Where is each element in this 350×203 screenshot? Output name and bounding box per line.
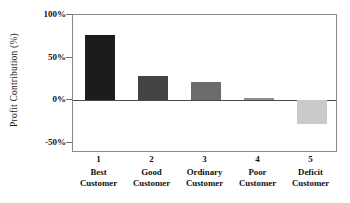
bar-slot xyxy=(285,15,337,151)
x-axis-category: 4PoorCustomer xyxy=(231,154,284,190)
y-axis-tick-mark xyxy=(66,57,72,58)
bar[interactable] xyxy=(297,100,327,124)
x-axis-category-name-line1: Best xyxy=(72,167,125,179)
x-axis-category-name-line1: Deficit xyxy=(284,167,337,179)
x-axis-category-number: 3 xyxy=(178,154,231,166)
bar-slot xyxy=(232,15,285,151)
x-axis-category-name-line1: Ordinary xyxy=(178,167,231,179)
x-axis-category-number: 1 xyxy=(72,154,125,166)
y-axis-tick-mark xyxy=(66,99,72,100)
y-axis-title: Profit Contribution (%) xyxy=(9,33,19,127)
chart-figure: Profit Contribution (%) 100%50%0%-50% 1B… xyxy=(0,0,350,203)
x-axis-category-name-line1: Poor xyxy=(231,167,284,179)
x-axis-category: 5DeficitCustomer xyxy=(284,154,337,190)
x-axis-category-name-line1: Good xyxy=(125,167,178,179)
y-axis-tick-label: 0% xyxy=(26,95,70,104)
x-axis-category-name-line2: Customer xyxy=(125,178,178,190)
y-axis-title-container: Profit Contribution (%) xyxy=(0,0,28,160)
y-axis-tick-label: 100% xyxy=(26,10,70,19)
bar-slot xyxy=(73,15,126,151)
plot-area xyxy=(72,14,337,152)
x-axis-category-labels: 1BestCustomer2GoodCustomer3OrdinaryCusto… xyxy=(72,154,337,203)
y-axis-tick-mark xyxy=(66,142,72,143)
y-axis-tick-mark xyxy=(66,14,72,15)
bar[interactable] xyxy=(191,82,221,100)
bar-slot xyxy=(126,15,179,151)
y-axis-tick-labels: 100%50%0%-50% xyxy=(26,0,70,203)
x-axis-category-number: 5 xyxy=(284,154,337,166)
x-axis-category-number: 2 xyxy=(125,154,178,166)
y-axis-tick-label: -50% xyxy=(26,137,70,146)
x-axis-category: 2GoodCustomer xyxy=(125,154,178,190)
x-axis-category-number: 4 xyxy=(231,154,284,166)
x-axis-category-name-line2: Customer xyxy=(231,178,284,190)
bar[interactable] xyxy=(85,35,115,101)
x-axis-category: 3OrdinaryCustomer xyxy=(178,154,231,190)
x-axis-category: 1BestCustomer xyxy=(72,154,125,190)
x-axis-category-name-line2: Customer xyxy=(72,178,125,190)
bar[interactable] xyxy=(138,76,168,100)
y-axis-tick-label: 50% xyxy=(26,52,70,61)
bar-slot xyxy=(179,15,232,151)
x-axis-category-name-line2: Customer xyxy=(178,178,231,190)
bar[interactable] xyxy=(244,98,274,101)
x-axis-category-name-line2: Customer xyxy=(284,178,337,190)
